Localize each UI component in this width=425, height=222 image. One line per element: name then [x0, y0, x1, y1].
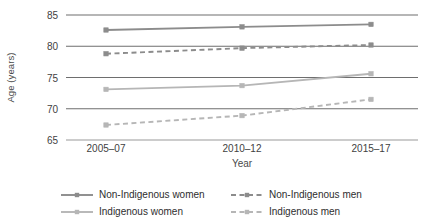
chart-legend: Non-Indigenous womenNon-Indigenous menIn… [60, 186, 400, 220]
y-tick-65: 65 [47, 135, 58, 146]
data-point-0-1 [240, 25, 244, 29]
series-0 [104, 22, 373, 32]
data-point-0-0 [104, 28, 108, 32]
series-line-3 [106, 99, 371, 125]
data-point-2-0 [104, 87, 108, 91]
data-point-3-1 [240, 113, 244, 117]
x-axis-title: Year [66, 158, 418, 169]
plot-svg [66, 0, 418, 155]
legend-label-2: Indigenous women [99, 206, 183, 217]
plot-area [66, 0, 418, 155]
legend-item-3[interactable]: Indigenous men [230, 206, 400, 217]
legend-label-0: Non-Indigenous women [99, 189, 205, 200]
x-tick-0: 2005–07 [87, 143, 126, 154]
legend-label-3: Indigenous men [269, 206, 340, 217]
y-tick-80: 80 [47, 41, 58, 52]
series-line-2 [106, 74, 371, 90]
y-axis-label-wrap: Age (years) [0, 0, 20, 155]
series-line-0 [106, 24, 371, 30]
series-3 [104, 97, 373, 127]
x-tick-2: 2015–17 [352, 143, 391, 154]
data-point-1-0 [104, 52, 108, 56]
legend-item-0[interactable]: Non-Indigenous women [60, 189, 230, 200]
life-expectancy-line-chart: Age (years) 8580757065 2005–072010–12201… [0, 0, 425, 222]
data-point-1-2 [369, 43, 373, 47]
series-2 [104, 72, 373, 92]
y-tick-75: 75 [47, 72, 58, 83]
y-axis-label: Age (years) [5, 52, 16, 102]
x-tick-1: 2010–12 [223, 143, 262, 154]
y-tick-85: 85 [47, 10, 58, 21]
data-point-2-2 [369, 72, 373, 76]
y-axis-tick-labels: 8580757065 [18, 0, 62, 155]
y-tick-70: 70 [47, 103, 58, 114]
legend-swatch-icon-1 [230, 190, 264, 200]
legend-swatch-icon-2 [60, 207, 94, 217]
legend-label-1: Non-Indigenous men [269, 189, 362, 200]
data-point-1-1 [240, 46, 244, 50]
series-1 [104, 43, 373, 56]
data-point-3-2 [369, 97, 373, 101]
legend-item-1[interactable]: Non-Indigenous men [230, 189, 400, 200]
legend-item-2[interactable]: Indigenous women [60, 206, 230, 217]
legend-swatch-icon-0 [60, 190, 94, 200]
data-point-0-2 [369, 22, 373, 26]
data-point-3-0 [104, 123, 108, 127]
data-point-2-1 [240, 83, 244, 87]
legend-swatch-icon-3 [230, 207, 264, 217]
